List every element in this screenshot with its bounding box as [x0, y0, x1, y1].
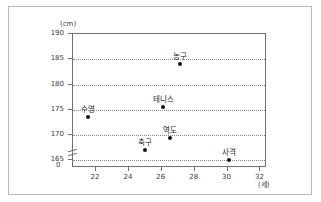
- y-axis-tick-label: 185: [32, 54, 64, 62]
- figure-root: (cm) (세) 0 16517017518018519022242628303…: [0, 0, 321, 202]
- x-axis-tick: [259, 167, 260, 171]
- x-axis-tick-label: 30: [215, 173, 239, 181]
- data-point: [178, 62, 182, 66]
- gridline: [73, 110, 265, 111]
- data-point-label: 사격: [222, 148, 236, 157]
- y-axis-tick-label: 165: [32, 155, 64, 163]
- x-axis-tick-label: 28: [182, 173, 206, 181]
- data-point: [227, 158, 231, 162]
- x-axis-tick: [95, 167, 96, 171]
- x-axis-tick-label: 26: [149, 173, 173, 181]
- x-axis-tick: [227, 167, 228, 171]
- data-point-label: 수영: [81, 105, 95, 114]
- data-point: [161, 105, 165, 109]
- x-axis-tick: [128, 167, 129, 171]
- plot-area: 수영축구테니스역도농구사격: [72, 33, 266, 167]
- gridline: [73, 160, 265, 161]
- x-axis-tick: [194, 167, 195, 171]
- data-point: [86, 115, 90, 119]
- y-axis-tick-label: 175: [32, 105, 64, 113]
- x-axis-unit-label: (세): [258, 181, 269, 189]
- gridline: [73, 85, 265, 86]
- x-axis-tick-label: 24: [116, 173, 140, 181]
- data-point: [168, 136, 172, 140]
- data-point-label: 농구: [173, 52, 187, 61]
- gridline: [73, 59, 265, 60]
- y-axis-tick-label: 190: [32, 29, 64, 37]
- y-axis-tick-label: 180: [32, 80, 64, 88]
- x-axis-tick: [161, 167, 162, 171]
- x-axis-tick-label: 32: [247, 173, 271, 181]
- data-point-label: 역도: [163, 126, 177, 135]
- data-point-label: 테니스: [153, 95, 174, 104]
- data-point: [143, 148, 147, 152]
- data-point-label: 축구: [138, 138, 152, 147]
- y-axis-tick-label: 170: [32, 130, 64, 138]
- y-axis-unit-label: (cm): [60, 20, 76, 28]
- x-axis-tick-label: 22: [83, 173, 107, 181]
